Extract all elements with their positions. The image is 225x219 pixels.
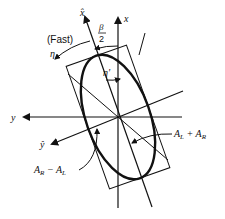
x-axis-label: x [123, 13, 129, 24]
fast-label: (Fast) [47, 34, 73, 45]
al-plus-ar-label: AL + AR [173, 128, 207, 141]
tangent-line [139, 33, 145, 55]
ar-minus-al-leader [79, 129, 97, 170]
y-axis-label: y [10, 112, 16, 123]
beta-half-arc [95, 46, 118, 49]
beta-label: β [98, 22, 104, 32]
al-plus-ar-leader [132, 134, 172, 143]
y-hat-label: ŷ [39, 139, 45, 150]
eta-prime-label: η' [103, 67, 111, 78]
polarization-ellipse-diagram: x y x̂ ŷ (Fast) η η' β 2 AL + AR AR − AL [0, 0, 225, 219]
x-hat-label: x̂ [79, 7, 85, 18]
ar-minus-al-label: AR − AL [33, 164, 66, 177]
eta-label: η [50, 48, 55, 59]
two-label: 2 [99, 34, 104, 44]
